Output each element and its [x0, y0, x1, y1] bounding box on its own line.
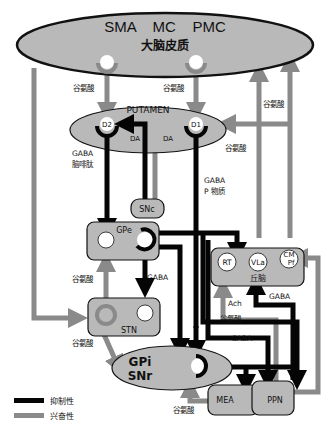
legend-inhibitory-label: 抑制性	[50, 396, 74, 406]
glu-stn-gpe-label: 谷氨酸	[72, 274, 94, 284]
cm-label: CM	[284, 251, 295, 259]
mea-to-gpi-path	[190, 388, 210, 401]
legend-excitatory-swatch	[14, 413, 44, 418]
d2-label: D2	[102, 121, 112, 129]
glu-stn-gpi-label: 谷氨酸	[72, 338, 94, 348]
legend: 抑制性 兴奋性	[14, 396, 74, 421]
thalamus-label: 丘脑	[250, 273, 266, 283]
glu-cortex-right-label: 谷氨酸	[163, 83, 185, 93]
glu-to-cortex-label: 谷氨酸	[263, 99, 285, 109]
cerebral-cortex: SMA MC PMC 大脑皮质	[17, 13, 313, 77]
legend-excitatory-label: 兴奋性	[50, 411, 74, 421]
cortex-areas-label: SMA MC PMC	[104, 18, 226, 35]
glu-ppn-thalamus-label: 谷氨酸	[220, 314, 242, 324]
gaba-enkephalin-label-1: GABA	[72, 149, 94, 158]
snc-nucleus: SNc	[131, 199, 164, 218]
mea-label: MEA	[216, 396, 234, 405]
putamen: PUTAMEN D2 D1 DA DA	[70, 105, 226, 153]
cortex-cell-left	[100, 55, 114, 69]
gpe-label: GPe	[116, 226, 132, 235]
rt-label: RT	[222, 258, 232, 267]
gaba-substance-p-label-2: P 物质	[204, 186, 226, 196]
putamen-label: PUTAMEN	[126, 105, 169, 115]
da-right-label: DA	[163, 135, 173, 143]
mea-nucleus: MEA	[208, 385, 258, 415]
gaba-gpi-output-label: GABA	[231, 334, 253, 343]
ppn-nucleus: PPN	[252, 381, 294, 415]
ppn-label: PPN	[267, 396, 283, 405]
snc-label: SNc	[139, 205, 154, 214]
stn-nucleus: STN	[88, 298, 160, 336]
legend-inhibitory-swatch	[14, 398, 44, 403]
da-left-label: DA	[130, 135, 140, 143]
gpe-nucleus: GPe	[87, 222, 159, 260]
cortex-name-label: 大脑皮质	[141, 38, 189, 53]
stn-label: STN	[121, 326, 137, 335]
d1-label: D1	[191, 121, 201, 129]
glu-mea-gpi-label: 谷氨酸	[173, 405, 195, 415]
gaba-enkephalin-label-2: 脑啡肽	[72, 159, 94, 169]
snr-label: SNr	[128, 369, 153, 383]
ach-label: Ach	[228, 299, 242, 308]
gaba-ppn-vla-label: GABA	[269, 292, 291, 301]
thalamus: RT VLa CM Pf 丘脑	[211, 248, 304, 286]
gpi-snr-nucleus: GPi SNr	[112, 346, 232, 390]
gpi-label: GPi	[129, 355, 152, 369]
vla-label: VLa	[251, 258, 265, 267]
basal-ganglia-circuit-diagram: SMA MC PMC 大脑皮质 PUTAMEN D2 D1 DA DA	[0, 0, 334, 429]
cortex-cell-right	[189, 55, 203, 69]
gaba-gpe-stn-label: GABA	[147, 273, 169, 282]
glu-cortex-left-label: 谷氨酸	[73, 83, 95, 93]
pf-label: Pf	[288, 259, 295, 267]
gaba-substance-p-label-1: GABA	[204, 176, 226, 185]
glu-thalamus-putamen-label: 谷氨酸	[225, 143, 247, 153]
